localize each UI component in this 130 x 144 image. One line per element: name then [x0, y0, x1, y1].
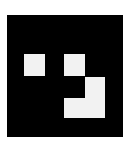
black-square-board — [7, 15, 123, 137]
left-white-square — [24, 54, 45, 76]
top-right-white-square — [64, 54, 85, 76]
l-shape-bottom-bar — [64, 98, 105, 118]
